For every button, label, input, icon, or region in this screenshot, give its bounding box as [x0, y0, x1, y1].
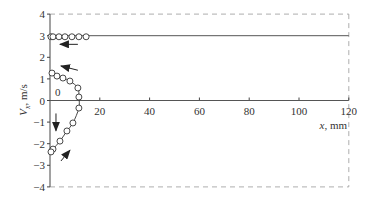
x-tick-label: 80	[244, 105, 256, 117]
x-tick-label: 60	[194, 105, 206, 117]
y-tick-label: −4	[33, 181, 45, 193]
velocity-profile-chart: 43210−1−2−3−420406080100120 x, mm 0 Vx, …	[0, 0, 369, 202]
x-tick-label: 40	[144, 105, 156, 117]
arrow-lower-up-icon	[61, 150, 70, 161]
reference-lines	[50, 36, 349, 101]
data-point	[56, 34, 62, 40]
data-point	[69, 34, 75, 40]
y-tick-label: 2	[40, 51, 46, 63]
data-point	[64, 128, 70, 134]
y-tick-label: 4	[40, 8, 46, 20]
data-point	[54, 73, 60, 79]
data-point	[76, 105, 82, 111]
x-axis-label: x, mm	[318, 119, 347, 131]
y-tick-label: 3	[40, 30, 46, 42]
y-tick-label: 1	[40, 73, 46, 85]
chart-canvas: 43210−1−2−3−420406080100120 x, mm 0 Vx, …	[0, 0, 369, 202]
data-point	[67, 78, 73, 84]
data-point	[62, 34, 68, 40]
data-point	[83, 34, 89, 40]
zero-annotation: 0	[55, 86, 61, 98]
data-point	[48, 149, 54, 155]
data-point	[70, 120, 76, 126]
y-tick-label: −3	[33, 159, 45, 171]
arrow-upper-left-icon	[61, 66, 78, 70]
x-tick-label: 100	[291, 105, 308, 117]
y-tick-label: −1	[33, 116, 45, 128]
data-point	[50, 34, 56, 40]
data-point	[76, 34, 82, 40]
y-tick-label: 0	[40, 95, 46, 107]
profile-curve	[50, 72, 79, 153]
data-point	[60, 75, 66, 81]
x-tick-label: 120	[341, 105, 358, 117]
profile-line	[50, 72, 79, 153]
x-tick-label: 20	[94, 105, 106, 117]
data-point	[57, 138, 63, 144]
data-point	[76, 94, 82, 100]
y-tick-label: −2	[33, 138, 45, 150]
y-axis-label: Vx, m/s	[17, 84, 32, 116]
data-point	[75, 85, 81, 91]
